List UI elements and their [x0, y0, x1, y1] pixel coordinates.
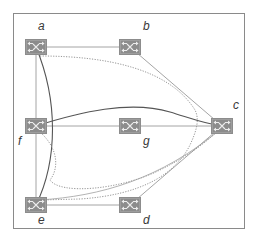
label-c: c	[233, 98, 239, 112]
switch-icon	[119, 118, 141, 134]
network-diagram: a b c f g e d	[0, 0, 257, 238]
node-a[interactable]	[25, 39, 47, 55]
node-f[interactable]	[25, 118, 47, 134]
switch-icon	[119, 197, 141, 213]
label-b: b	[143, 19, 150, 33]
label-e: e	[38, 213, 45, 227]
node-c[interactable]	[211, 118, 233, 134]
switch-icon	[119, 39, 141, 55]
label-a: a	[38, 19, 45, 33]
switch-icon	[25, 197, 47, 213]
switch-icon	[25, 39, 47, 55]
label-d: d	[143, 213, 150, 227]
node-g[interactable]	[119, 118, 141, 134]
node-b[interactable]	[119, 39, 141, 55]
switch-icon	[25, 118, 47, 134]
label-g: g	[143, 134, 150, 148]
switch-icon	[211, 118, 233, 134]
node-e[interactable]	[25, 197, 47, 213]
node-d[interactable]	[119, 197, 141, 213]
